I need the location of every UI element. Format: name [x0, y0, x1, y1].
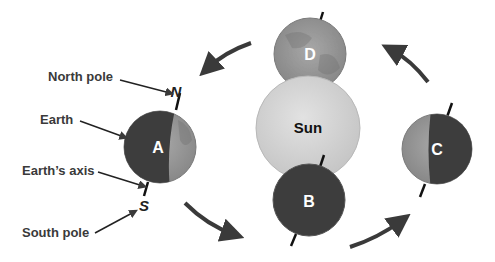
position-label-c: C [431, 141, 443, 158]
position-label-b: B [303, 193, 315, 210]
position-label-d: D [304, 46, 316, 63]
earth-position-c: C [402, 103, 480, 197]
orbit-arrow-a-to-b [185, 203, 233, 234]
south-pole-marker: S [139, 197, 149, 214]
north-pole-marker: N [171, 83, 183, 100]
label-north-pole: North pole [48, 69, 113, 84]
diagram-canvas: D Sun B A C N S North pole Ear [0, 0, 495, 262]
earth-position-a: A [120, 93, 196, 196]
position-label-a: A [152, 139, 164, 156]
orbit-arrow-c-to-d [392, 50, 428, 82]
leader-north-pole-icon [120, 80, 170, 93]
leader-earth-icon [80, 121, 124, 137]
sun-label: Sun [294, 119, 322, 136]
orbit-arrow-d-to-a [208, 43, 251, 68]
leader-south-pole-icon [95, 212, 134, 233]
axis-line-c-bottom-icon [420, 184, 425, 197]
orbit-arrow-b-to-c [350, 221, 401, 247]
label-earth: Earth [40, 112, 73, 127]
axis-line-c-top-icon [447, 103, 452, 117]
axis-line-a-bottom-icon [144, 182, 148, 196]
label-earths-axis: Earth’s axis [22, 163, 95, 178]
label-south-pole: South pole [22, 225, 89, 240]
axis-line-b-bottom-icon [291, 234, 296, 246]
